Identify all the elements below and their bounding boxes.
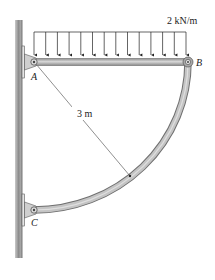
pin-support-c: [25, 202, 38, 218]
wall: [15, 20, 22, 258]
radius-end-dot: [129, 175, 131, 177]
point-label-a: A: [30, 71, 38, 82]
radius-label: 3 m: [77, 108, 93, 119]
beam-ab: [34, 59, 188, 66]
pin-c-icon: [33, 209, 35, 211]
pin-b-icon: [187, 61, 189, 63]
pin-joint-b: [183, 57, 193, 67]
point-label-b: B: [196, 57, 202, 68]
wall-plate-c: [22, 194, 25, 226]
pin-support-a: [25, 54, 38, 70]
wall-plate-a: [22, 46, 25, 78]
curved-member-bc: [34, 62, 188, 210]
load-arrows: [34, 32, 186, 55]
distributed-load: 2 kN/m: [34, 15, 198, 55]
load-label: 2 kN/m: [167, 15, 198, 26]
structure-diagram: 3 m: [0, 0, 215, 280]
pin-a-icon: [33, 61, 35, 63]
point-label-c: C: [31, 217, 38, 228]
